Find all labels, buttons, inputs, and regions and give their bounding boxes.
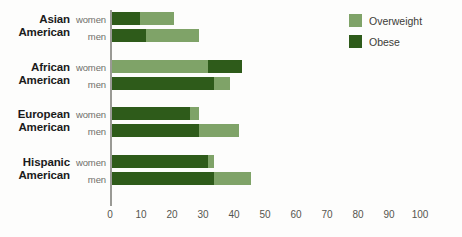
bar-row[interactable]: [112, 29, 199, 42]
x-tick-60: 60: [281, 209, 311, 220]
bar-segment-obese: [112, 124, 199, 137]
series-label-women: women: [64, 157, 106, 168]
bar-segment-overweight: [190, 107, 199, 120]
x-tick-0: 0: [95, 209, 125, 220]
bar-segment-obese: [112, 12, 140, 25]
x-tick-100: 100: [405, 209, 435, 220]
group-label-hispanic: HispanicAmerican: [0, 156, 70, 181]
x-tick-20: 20: [157, 209, 187, 220]
group-label-line2: American: [0, 169, 70, 182]
bar-segment-obese: [112, 155, 208, 168]
bar-row[interactable]: [112, 172, 252, 185]
group-label-line1: European: [18, 108, 70, 120]
overweight-obese-chart: AsianAmericanwomenmenAfricanAmericanwome…: [0, 0, 462, 237]
series-label-men: men: [64, 79, 106, 90]
x-tick-70: 70: [312, 209, 342, 220]
x-tick-90: 90: [374, 209, 404, 220]
series-label-men: men: [64, 126, 106, 137]
legend-item-overweight[interactable]: Overweight: [349, 14, 422, 27]
bar-row[interactable]: [112, 77, 230, 90]
group-label-european: EuropeanAmerican: [0, 108, 70, 133]
bar-row[interactable]: [112, 60, 242, 73]
legend-item-obese[interactable]: Obese: [349, 35, 422, 48]
legend-label-overweight: Overweight: [369, 15, 422, 27]
bar-segment-overweight: [214, 77, 230, 90]
legend-swatch-overweight: [349, 14, 362, 27]
bar-row[interactable]: [112, 124, 239, 137]
bar-row[interactable]: [112, 12, 174, 25]
x-tick-10: 10: [126, 209, 156, 220]
group-label-line2: American: [0, 26, 70, 39]
bar-segment-overweight: [140, 12, 174, 25]
series-label-women: women: [64, 62, 106, 73]
bar-segment-obese: [112, 172, 214, 185]
legend-label-obese: Obese: [369, 36, 400, 48]
bar-row[interactable]: [112, 155, 214, 168]
legend-swatch-obese: [349, 35, 362, 48]
bar-segment-overweight: [208, 155, 214, 168]
series-label-women: women: [64, 14, 106, 25]
bar-segment-overweight: [214, 172, 251, 185]
group-label-line1: Hispanic: [23, 156, 70, 168]
bar-segment-overweight: [199, 124, 239, 137]
x-tick-30: 30: [188, 209, 218, 220]
bar-segment-obese: [208, 60, 242, 73]
bar-segment-overweight: [146, 29, 199, 42]
bar-row[interactable]: [112, 107, 199, 120]
group-label-african: AfricanAmerican: [0, 61, 70, 86]
group-label-line2: American: [0, 74, 70, 87]
x-tick-50: 50: [250, 209, 280, 220]
x-tick-80: 80: [343, 209, 373, 220]
bar-segment-obese: [112, 77, 214, 90]
bar-segment-overweight: [112, 60, 208, 73]
series-label-women: women: [64, 109, 106, 120]
series-label-men: men: [64, 31, 106, 42]
bar-segment-obese: [112, 29, 146, 42]
bar-segment-obese: [112, 107, 190, 120]
group-label-asian: AsianAmerican: [0, 13, 70, 38]
chart-legend: Overweight Obese: [349, 14, 422, 56]
group-label-line2: American: [0, 121, 70, 134]
x-tick-40: 40: [219, 209, 249, 220]
series-label-men: men: [64, 174, 106, 185]
